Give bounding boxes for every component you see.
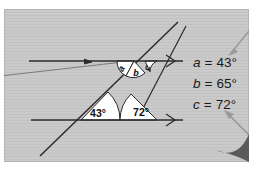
legend-value-a: 43° <box>216 55 236 70</box>
angle-label-43: 43° <box>90 107 106 119</box>
legend-variable-c: c <box>193 97 200 112</box>
legend-variable-b: b <box>193 76 201 91</box>
legend-equals-b: = <box>205 76 213 91</box>
angle-letter-b: b <box>133 68 139 78</box>
diagram-canvas: 43° 72° a b c a=43° b=65° c=72° <box>0 0 253 171</box>
legend-equals-c: = <box>204 97 212 112</box>
angle-label-72: 72° <box>133 106 149 118</box>
legend-value-c: 72° <box>216 97 236 112</box>
legend-equals-a: = <box>205 55 213 70</box>
figure-container: 43° 72° a b c a=43° b=65° c=72° <box>0 0 253 171</box>
legend-variable-a: a <box>193 55 201 70</box>
legend-value-b: 65° <box>216 76 236 91</box>
